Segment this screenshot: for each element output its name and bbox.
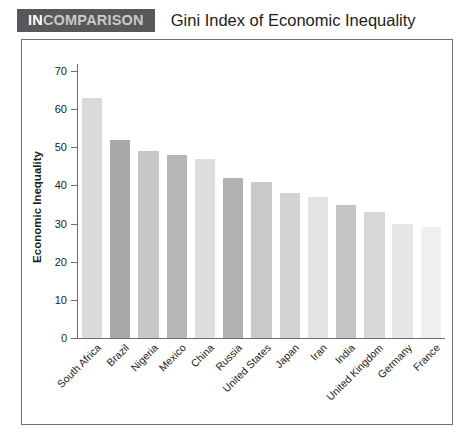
x-axis-category-label-text: Iran [308,340,331,363]
bar [223,178,243,338]
y-axis-tick-mark [71,147,77,148]
bar [251,182,271,338]
bar-series [78,64,445,338]
y-axis-tick-label: 0 [25,332,67,344]
y-axis-tick-mark [71,338,77,339]
y-axis-tick-mark [71,109,77,110]
chart-frame: 010203040506070 Economic Inequality Sout… [21,39,453,425]
chart-header: INCOMPARISON Gini Index of Economic Ineq… [0,0,467,40]
page-title: Gini Index of Economic Inequality [171,11,416,30]
x-axis-category-label-text: South Africa [55,340,105,390]
bar [364,212,384,338]
y-axis-tick-mark [71,224,77,225]
y-axis-tick-mark [71,185,77,186]
y-axis-tick-mark [71,262,77,263]
bar [308,197,328,338]
brand-badge: INCOMPARISON [17,9,155,32]
plot-area: 010203040506070 Economic Inequality Sout… [22,40,454,426]
bar [336,205,356,339]
bar [195,159,215,338]
y-axis-title: Economic Inequality [31,107,43,307]
bar [82,98,102,338]
y-axis-tick-mark [71,300,77,301]
x-axis-category-labels: South AfricaBrazilNigeriaMexicoChinaRuss… [78,340,445,426]
y-axis-tick-mark [71,71,77,72]
y-axis-tick-label: 70 [25,65,67,77]
brand-suffix-text: COMPARISON [43,12,144,28]
bar [167,155,187,338]
brand-prefix-text: IN [28,12,43,28]
